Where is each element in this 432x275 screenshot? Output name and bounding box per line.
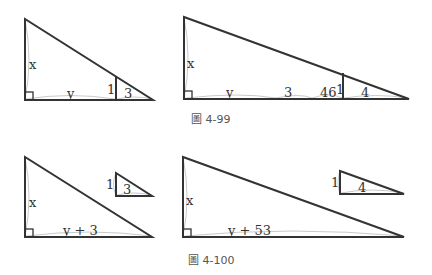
label-x: x bbox=[29, 195, 37, 210]
small-triangle-4-100-left: 1 3 bbox=[106, 173, 152, 197]
label-x: x bbox=[187, 56, 195, 71]
triangle-4-100-left: x y + 3 bbox=[25, 157, 152, 238]
triangle-4-99-right: x y 3 46 1 4 bbox=[184, 17, 409, 100]
label-small-height: 1 bbox=[106, 177, 114, 192]
label-small-height: 1 bbox=[331, 175, 339, 190]
label-y: y bbox=[66, 86, 75, 101]
small-triangle-4-100-right: 1 4 bbox=[331, 171, 404, 195]
label-inner-height: 1 bbox=[107, 82, 115, 97]
label-inner-base: 3 bbox=[124, 86, 132, 101]
caption-figure-4-100: 圖 4-100 bbox=[188, 251, 234, 267]
caption-figure-4-99: 圖 4-99 bbox=[191, 110, 230, 126]
label-inner-height: 1 bbox=[336, 82, 344, 97]
label-x: x bbox=[186, 193, 194, 208]
label-small-base: 4 bbox=[358, 180, 366, 195]
figure-canvas: x y 1 3 x y 3 46 1 4 x y + 3 1 3 bbox=[0, 0, 432, 275]
triangle-4-100-right: x y + 53 bbox=[183, 157, 404, 238]
label-x: x bbox=[29, 57, 37, 72]
triangle-4-99-left: x y 1 3 bbox=[25, 19, 153, 101]
label-46: 46 bbox=[320, 85, 337, 100]
label-y: y bbox=[225, 85, 234, 100]
label-small-base: 3 bbox=[123, 182, 131, 197]
label-3: 3 bbox=[284, 85, 292, 100]
label-y-plus-3: y + 3 bbox=[62, 223, 98, 238]
label-y-plus-53: y + 53 bbox=[227, 223, 271, 238]
label-inner-base: 4 bbox=[361, 85, 369, 100]
